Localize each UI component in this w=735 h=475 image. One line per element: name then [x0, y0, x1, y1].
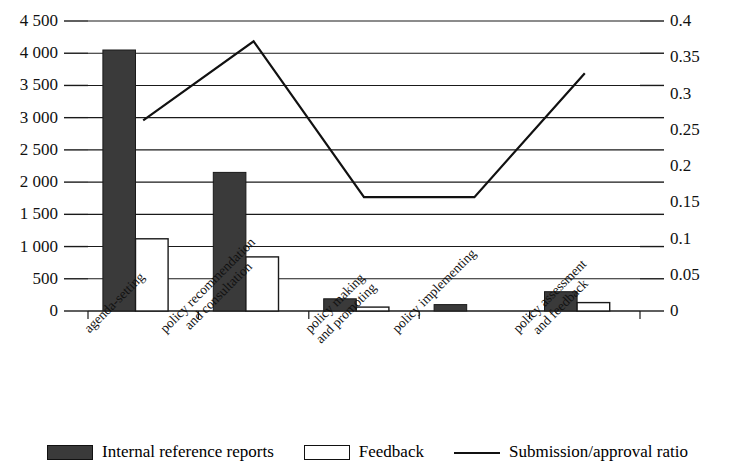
legend-item-submission-approval-ratio: Submission/approval ratio — [454, 443, 688, 461]
legend-label: Feedback — [359, 443, 424, 461]
y-axis-left-tick-label: 1 000 — [0, 238, 58, 255]
y-axis-right-tick-label: 0.3 — [670, 85, 691, 102]
y-axis-left-tick-label: 2 500 — [0, 141, 58, 158]
y-axis-left-tick-label: 4 000 — [0, 44, 58, 61]
y-axis-right-tick-label: 0.4 — [670, 12, 691, 29]
y-axis-right-tick-label: 0.25 — [670, 121, 700, 138]
y-axis-left-tick-label: 500 — [0, 270, 58, 287]
y-axis-left-tick-label: 0 — [0, 302, 58, 319]
y-axis-left-tick-label: 1 500 — [0, 205, 58, 222]
white-square-swatch-icon — [304, 445, 350, 460]
bar-internal-reference-reports — [434, 305, 467, 311]
y-axis-right-tick-label: 0.1 — [670, 230, 691, 247]
bar-internal-reference-reports — [103, 50, 136, 311]
y-axis-left-tick-label: 2 000 — [0, 173, 58, 190]
chart-container: 05001 0001 5002 0002 5003 0003 5004 0004… — [0, 0, 735, 475]
dark-square-swatch-icon — [47, 445, 93, 460]
line-submission-approval-ratio — [143, 41, 585, 197]
y-axis-right-tick-label: 0.35 — [670, 48, 700, 65]
legend-item-internal-reference-reports: Internal reference reports — [47, 443, 274, 461]
y-axis-right-tick-label: 0.15 — [670, 193, 700, 210]
y-axis-right-tick-label: 0.05 — [670, 266, 700, 283]
legend-label: Submission/approval ratio — [509, 443, 688, 461]
y-axis-left-tick-label: 4 500 — [0, 12, 58, 29]
chart-legend: Internal reference reports Feedback Subm… — [0, 437, 735, 467]
y-axis-left-tick-label: 3 000 — [0, 109, 58, 126]
y-axis-right-tick-label: 0 — [670, 302, 679, 319]
chart-plot-area — [0, 0, 735, 475]
legend-item-feedback: Feedback — [304, 443, 424, 461]
bar-feedback — [577, 303, 610, 311]
y-axis-right-tick-label: 0.2 — [670, 157, 691, 174]
legend-label: Internal reference reports — [102, 443, 274, 461]
y-axis-left-tick-label: 3 500 — [0, 76, 58, 93]
line-swatch-icon — [454, 445, 500, 460]
